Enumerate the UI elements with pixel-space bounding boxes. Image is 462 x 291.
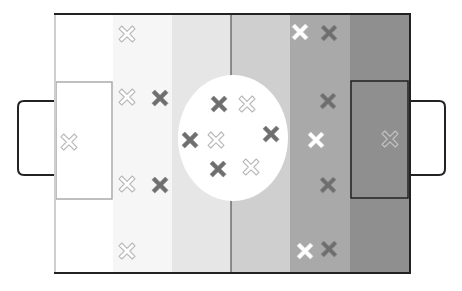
- formation-diagram: [0, 0, 462, 291]
- goal-left: [18, 101, 55, 175]
- goal-right: [410, 101, 445, 175]
- stripe-1: [55, 14, 113, 273]
- pitch: [0, 0, 462, 291]
- stripe-2: [113, 14, 172, 273]
- stripe-6: [350, 14, 410, 273]
